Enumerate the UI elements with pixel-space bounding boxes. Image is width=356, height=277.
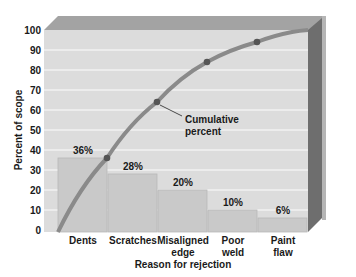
bar-value-label: 36% [73, 145, 93, 156]
x-category-label: Poorweld [221, 235, 245, 258]
y-tick-label: 10 [30, 205, 42, 216]
y-tick-label: 30 [30, 165, 42, 176]
frame-side [308, 18, 322, 232]
y-tick-label: 20 [30, 185, 42, 196]
frame-top [44, 16, 326, 30]
y-tick-label: 40 [30, 145, 42, 156]
bar [158, 190, 207, 232]
cumulative-point [154, 99, 161, 106]
bar [258, 218, 307, 232]
bar-value-label: 28% [123, 161, 143, 172]
y-tick-label: 90 [30, 45, 42, 56]
pareto-chart: 36%28%20%10%6% 0102030405060708090100 De… [0, 0, 356, 277]
cumulative-point [104, 155, 111, 162]
cumulative-point [254, 39, 261, 46]
y-tick-label: 80 [30, 65, 42, 76]
x-category-label: Scratches [109, 235, 157, 246]
y-axis-ticks: 0102030405060708090100 [24, 25, 41, 236]
x-category-label: Paintflaw [271, 235, 296, 258]
y-tick-label: 0 [35, 225, 41, 236]
y-axis-title: Percent of scope [13, 89, 24, 170]
y-tick-label: 100 [24, 25, 41, 36]
bar-value-label: 6% [276, 205, 291, 216]
frame-side-edge [322, 16, 326, 220]
x-category-label: Dents [69, 235, 97, 246]
bar [208, 210, 257, 232]
x-axis-title: Reason for rejection [135, 259, 232, 270]
x-category-label: Misalignededge [157, 235, 209, 258]
x-axis-categories: DentsScratchesMisalignededgePoorweldPain… [69, 235, 296, 258]
bar-value-label: 10% [223, 197, 243, 208]
bar [108, 174, 157, 232]
y-tick-label: 50 [30, 125, 42, 136]
bar-value-label: 20% [173, 177, 193, 188]
y-tick-label: 60 [30, 105, 42, 116]
cumulative-point [204, 59, 211, 66]
y-tick-label: 70 [30, 85, 42, 96]
